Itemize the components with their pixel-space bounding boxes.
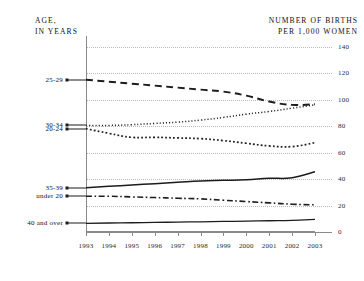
leader-line — [66, 79, 86, 80]
x-tick-label: 1998 — [193, 242, 208, 250]
leader-line — [66, 223, 86, 224]
x-tick-label: 2003 — [308, 242, 323, 250]
leader-line — [66, 128, 86, 129]
y-tick-label: 100 — [338, 96, 349, 104]
x-tick-label: 1996 — [147, 242, 162, 250]
x-tick — [246, 232, 247, 236]
x-tick — [109, 232, 110, 236]
y-tick-label: 80 — [338, 122, 346, 130]
y-tick-label: 120 — [338, 69, 349, 77]
y-tick-label: 140 — [338, 43, 349, 51]
x-tick-label: 2000 — [239, 242, 254, 250]
leader-marker — [66, 186, 69, 189]
x-tick-label: 2001 — [262, 242, 277, 250]
x-tick — [178, 232, 179, 236]
chart-right-header: NUMBER OF BIRTHS PER 1,000 WOMEN — [269, 16, 358, 37]
leader-line — [66, 187, 86, 188]
x-tick-label: 1994 — [101, 242, 116, 250]
x-tick — [86, 232, 87, 236]
y-tick-label: 40 — [338, 175, 346, 183]
x-tick — [155, 232, 156, 236]
series-line-under-20 — [86, 196, 315, 205]
birth-rate-line-chart: AGE, IN YEARS NUMBER OF BIRTHS PER 1,000… — [0, 0, 364, 281]
x-tick-label: 2002 — [285, 242, 300, 250]
series-line-25-29 — [86, 80, 315, 105]
x-tick-label: 1999 — [216, 242, 231, 250]
y-tick-label: 60 — [338, 149, 346, 157]
x-tick — [201, 232, 202, 236]
leader-marker — [66, 127, 69, 130]
series-label-20-24: 20-24 — [0, 125, 63, 133]
series-line-30-34 — [86, 105, 315, 126]
leader-line — [66, 196, 86, 197]
chart-left-header: AGE, IN YEARS — [35, 16, 78, 37]
gridline — [86, 232, 332, 233]
series-line-40-and-over — [86, 219, 315, 223]
series-line-20-24 — [86, 129, 315, 147]
x-tick — [269, 232, 270, 236]
series-lines — [86, 36, 315, 232]
x-tick-label: 1993 — [79, 242, 94, 250]
x-tick — [223, 232, 224, 236]
series-label-40-and-over: 40 and over — [0, 219, 63, 227]
x-tick — [132, 232, 133, 236]
leader-marker — [66, 195, 69, 198]
x-tick-label: 1995 — [124, 242, 139, 250]
leader-marker — [66, 78, 69, 81]
plot-area: 020406080100120140 199319941995199619971… — [86, 36, 315, 232]
series-label-25-29: 25-29 — [0, 76, 63, 84]
x-tick — [315, 232, 316, 236]
series-label-35-39: 35-39 — [0, 184, 63, 192]
series-label-under-20: under 20 — [0, 192, 63, 200]
x-tick-label: 1997 — [170, 242, 185, 250]
leader-marker — [66, 222, 69, 225]
leader-line — [66, 125, 86, 126]
series-line-35-39 — [86, 172, 315, 188]
y-tick-label: 0 — [338, 228, 342, 236]
x-tick — [292, 232, 293, 236]
y-tick-label: 20 — [338, 202, 346, 210]
